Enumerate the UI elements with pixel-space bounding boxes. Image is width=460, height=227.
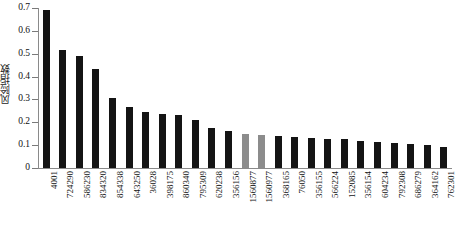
x-axis-tick-label: 792308 <box>398 171 407 198</box>
x-axis-tick-label: 566224 <box>331 171 340 198</box>
x-axis-tick-label: 356156 <box>232 171 241 198</box>
bar <box>159 114 166 168</box>
x-axis-tick-label: 724290 <box>66 171 75 198</box>
x-axis-tick-label: 762301 <box>447 171 456 198</box>
bar <box>391 143 398 168</box>
x-axis-tick-label: 368165 <box>282 171 291 198</box>
bar <box>324 139 331 168</box>
y-axis-tick-label: 0.1 <box>0 140 30 150</box>
bar <box>374 142 381 168</box>
x-axis-tick-label: 398175 <box>166 171 175 198</box>
bar <box>76 56 83 168</box>
x-axis-tick-label: 1560977 <box>265 171 274 203</box>
bar <box>142 112 149 168</box>
x-axis-tick-label: 152085 <box>348 171 357 198</box>
x-axis-labels: 4001724290586230834320854338643250360283… <box>38 169 452 227</box>
bar <box>175 115 182 168</box>
x-axis-tick-label: 356154 <box>364 171 373 198</box>
y-axis-tick-label: 0.7 <box>0 3 30 13</box>
bar <box>126 107 133 168</box>
bar <box>242 134 249 168</box>
y-axis-tick-label: 0.5 <box>0 49 30 59</box>
x-axis-tick-label: 604234 <box>381 171 390 198</box>
y-axis-tick-label: 0.4 <box>0 72 30 82</box>
bar <box>308 138 315 168</box>
plot-area <box>38 8 452 168</box>
bar <box>192 120 199 168</box>
x-axis-tick-label: 834320 <box>99 171 108 198</box>
bar <box>275 136 282 168</box>
y-axis-tick-label: 0.6 <box>0 26 30 36</box>
x-axis-tick-label: 620238 <box>215 171 224 198</box>
x-axis-tick-label: 76050 <box>298 171 307 194</box>
bar <box>92 69 99 168</box>
x-axis-tick-label: 795309 <box>199 171 208 198</box>
x-axis-tick-label: 36028 <box>149 171 158 194</box>
y-axis-tick-label: 0.3 <box>0 94 30 104</box>
x-axis-tick-label: 4001 <box>50 171 59 189</box>
bar <box>43 10 50 168</box>
chart-screenshot: 风险指数 00.10.20.30.40.50.60.7 400172429058… <box>0 0 460 227</box>
y-axis-tick-label: 0.2 <box>0 117 30 127</box>
bar <box>208 128 215 168</box>
bar <box>291 137 298 168</box>
x-axis-tick-label: 854338 <box>116 171 125 198</box>
bar <box>424 145 431 168</box>
x-axis-tick-label: 364162 <box>431 171 440 198</box>
bar <box>341 139 348 168</box>
x-axis-tick-label: 860340 <box>182 171 191 198</box>
bar <box>59 50 66 168</box>
bar <box>357 141 364 168</box>
bar-series <box>38 8 452 168</box>
x-axis-tick-label: 586230 <box>83 171 92 198</box>
bar <box>109 98 116 168</box>
y-axis-tick-label: 0 <box>0 163 30 173</box>
x-axis-tick-label: 356155 <box>315 171 324 198</box>
x-axis-tick-label: 686279 <box>414 171 423 198</box>
x-axis-tick-label: 1560877 <box>249 171 258 203</box>
bar <box>440 147 447 168</box>
x-axis-tick-label: 643250 <box>133 171 142 198</box>
bar <box>225 131 232 168</box>
bar <box>258 135 265 168</box>
bar <box>407 144 414 168</box>
